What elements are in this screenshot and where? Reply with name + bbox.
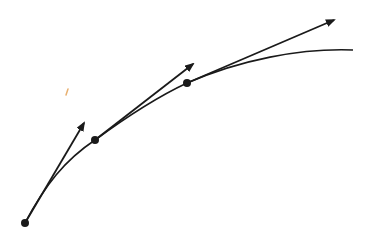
curve <box>25 50 353 223</box>
curve-points <box>21 79 191 227</box>
stray-mark <box>66 89 68 95</box>
tangent-arrow-1 <box>95 64 193 140</box>
curve-point-0 <box>21 219 29 227</box>
tangent-vectors <box>25 20 334 223</box>
curve-point-2 <box>183 79 191 87</box>
tangent-vector-diagram <box>0 0 383 245</box>
curve-point-1 <box>91 136 99 144</box>
tangent-arrow-0 <box>25 123 84 223</box>
